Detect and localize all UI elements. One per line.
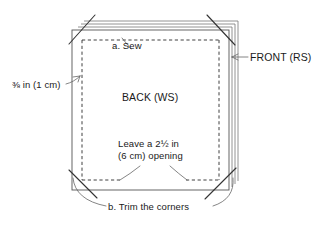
step-b-trim-corners-label: b. Trim the corners xyxy=(108,201,189,213)
leader-trim-right xyxy=(213,178,233,206)
leader-opening-left xyxy=(120,166,140,180)
opening-label-line-2: (6 cm) opening xyxy=(118,150,183,162)
back-piece-label: BACK (WS) xyxy=(122,91,178,104)
trim-mark-bottom-right xyxy=(205,168,236,199)
opening-label-line-1: Leave a 2½ in xyxy=(118,138,179,149)
fabric-panel-outline xyxy=(72,30,229,190)
step-a-sew-label: a. Sew xyxy=(112,40,142,52)
fabric-layer-stack xyxy=(78,21,238,187)
leader-opening-right xyxy=(170,166,187,180)
leader-lines xyxy=(66,38,248,206)
opening-label: Leave a 2½ in (6 cm) opening xyxy=(118,138,183,161)
fabric-layer-edge-2 xyxy=(78,27,232,187)
diagram-artwork xyxy=(0,0,330,226)
leader-trim-left xyxy=(73,178,106,206)
seam-allowance-label: ⅜ in (1 cm) xyxy=(12,79,61,91)
sewing-diagram: ⅜ in (1 cm) a. Sew FRONT (RS) BACK (WS) … xyxy=(0,0,330,226)
front-piece-label: FRONT (RS) xyxy=(250,51,311,64)
trim-mark-bottom-left xyxy=(69,170,97,198)
corner-trim-marks xyxy=(69,15,236,199)
